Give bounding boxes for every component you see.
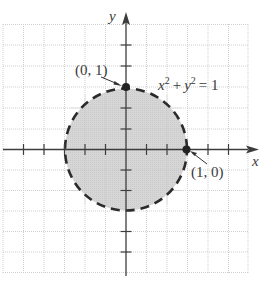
- eq-exp-x: 2: [165, 75, 170, 86]
- eq-base-y: y: [182, 77, 191, 93]
- equation-label: x2+y2= 1: [157, 75, 219, 93]
- point-label-0-1: (0, 1): [75, 62, 108, 79]
- x-axis-label: x: [251, 153, 259, 169]
- point-0-1: [122, 83, 130, 91]
- eq-exp-y: 2: [191, 75, 196, 86]
- coordinate-plane: y x (0, 1) (1, 0) x2+y2= 1: [0, 0, 261, 282]
- point-1-0: [183, 146, 191, 154]
- point-label-1-0: (1, 0): [191, 164, 224, 181]
- eq-plus: +: [173, 77, 181, 93]
- y-axis-label: y: [107, 8, 116, 24]
- pointer-arrow-icon: [114, 81, 123, 86]
- eq-rhs: = 1: [199, 77, 219, 93]
